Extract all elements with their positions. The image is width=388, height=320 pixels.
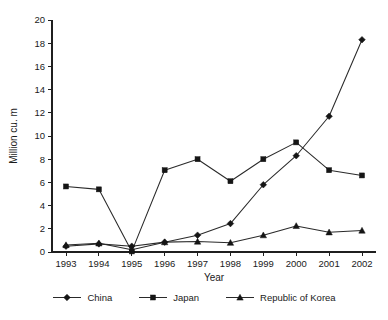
data-point: [64, 184, 69, 189]
data-point: [194, 232, 201, 239]
data-point: [327, 168, 332, 173]
data-point: [195, 157, 200, 162]
x-tick-label: 2002: [351, 258, 372, 269]
legend-item[interactable]: Japan: [138, 292, 199, 303]
legend-item[interactable]: China: [52, 292, 112, 303]
legend-label: Japan: [173, 293, 199, 303]
series-lines-group: [66, 40, 362, 252]
x-axis-ticks: 1993199419951996199719981999200020012002: [55, 252, 372, 269]
legend-item[interactable]: Republic of Korea: [225, 292, 336, 303]
legend-marker-diamond-icon: [52, 292, 82, 303]
data-point: [228, 179, 233, 184]
y-tick-label: 10: [34, 130, 45, 141]
data-point: [261, 157, 266, 162]
x-tick-label: 1993: [55, 258, 76, 269]
legend-label: China: [87, 293, 112, 303]
data-point: [294, 140, 299, 145]
x-tick-label: 1999: [253, 258, 274, 269]
y-tick-label: 20: [34, 14, 45, 25]
y-tick-label: 0: [40, 246, 45, 257]
y-tick-label: 8: [40, 154, 45, 165]
x-tick-label: 2000: [286, 258, 307, 269]
chart-legend: ChinaJapanRepublic of Korea: [0, 292, 388, 303]
y-tick-label: 12: [34, 107, 45, 118]
y-axis-title: Million cu. m: [8, 108, 19, 164]
x-tick-label: 2001: [319, 258, 340, 269]
y-tick-label: 14: [34, 84, 45, 95]
x-tick-label: 1997: [187, 258, 208, 269]
legend-marker-triangle-icon: [225, 292, 255, 303]
y-axis-ticks: 02468101214161820: [34, 14, 52, 257]
line-chart: 02468101214161820 1993199419951996199719…: [0, 0, 388, 320]
legend-label: Republic of Korea: [260, 293, 336, 303]
data-point: [359, 36, 366, 43]
data-point: [360, 173, 365, 178]
series-line-china: [66, 40, 362, 246]
x-axis-title: Year: [204, 272, 225, 283]
data-point: [96, 187, 101, 192]
chart-plot-area: 02468101214161820 1993199419951996199719…: [0, 0, 388, 320]
y-tick-label: 18: [34, 38, 45, 49]
x-tick-label: 1998: [220, 258, 241, 269]
series-line-japan: [66, 142, 362, 251]
legend-marker-square-icon: [138, 292, 168, 303]
data-point: [293, 223, 299, 229]
x-tick-label: 1994: [88, 258, 109, 269]
x-tick-label: 1996: [154, 258, 175, 269]
y-tick-label: 4: [40, 200, 45, 211]
series-markers-group: [63, 36, 366, 254]
y-tick-label: 2: [40, 223, 45, 234]
x-tick-label: 1995: [121, 258, 142, 269]
y-tick-label: 16: [34, 61, 45, 72]
data-point: [162, 168, 167, 173]
y-tick-label: 6: [40, 177, 45, 188]
